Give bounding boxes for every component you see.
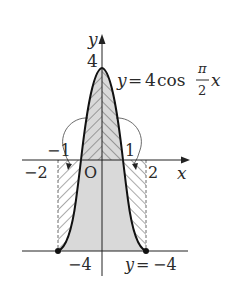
eq-frac-den: 2	[198, 83, 206, 98]
eq-frac-num: π	[197, 61, 207, 76]
line-eq-val: −4	[153, 255, 177, 274]
line-eq-equals: =	[136, 255, 149, 274]
eq-coef: 4	[145, 70, 156, 90]
y-tick-neg4: −4	[68, 255, 92, 274]
y-tick-4: 4	[87, 51, 98, 71]
line-eq-y: y	[124, 255, 135, 274]
x-tick-neg2: −2	[24, 163, 48, 182]
endpoint-left	[55, 248, 61, 254]
y-axis-arrow-icon	[99, 34, 106, 44]
eq-cos: cos	[157, 70, 185, 90]
eq-y: y	[116, 70, 127, 90]
line-equation-label: y = −4	[124, 255, 177, 274]
eq-equals: =	[128, 70, 142, 90]
x-tick-neg1: −1	[47, 141, 71, 160]
endpoint-right	[143, 248, 149, 254]
origin-label: O	[84, 163, 97, 182]
cosine-area-diagram: y 4 x O −1 1 −2 2 −4 y = 4 cos π 2 x y =…	[0, 0, 242, 292]
x-tick-pos2: 2	[148, 163, 158, 182]
x-tick-pos1: 1	[125, 141, 135, 160]
curve-equation-label: y = 4 cos π 2 x	[116, 61, 221, 98]
y-axis-label: y	[87, 29, 98, 49]
x-axis-label: x	[177, 163, 187, 183]
eq-x: x	[211, 70, 221, 90]
